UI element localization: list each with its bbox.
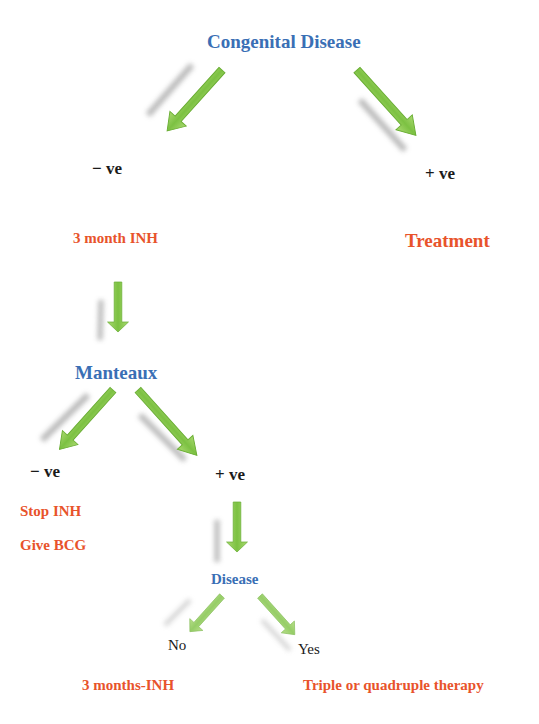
arrow-disease-to-yes <box>253 590 301 640</box>
test-positive-label: + ve <box>215 465 245 485</box>
test-negative-label: − ve <box>30 462 60 482</box>
root-node: Congenital Disease <box>207 31 361 53</box>
disease-yes-label: Yes <box>298 641 320 658</box>
stop-inh-node: Stop INH <box>20 503 81 520</box>
arrow-positive-to-disease <box>227 502 248 552</box>
manteaux-node: Manteaux <box>75 362 157 384</box>
arrow-shadows <box>42 65 405 650</box>
arrow-inh-to-manteaux <box>108 282 129 332</box>
no-action-node: 3 months-INH <box>82 677 174 694</box>
root-negative-label: − ve <box>92 159 122 179</box>
root-positive-label: + ve <box>425 164 455 184</box>
pos-action-node: Treatment <box>405 230 490 252</box>
yes-action-node: Triple or quadruple therapy <box>303 677 484 694</box>
arrow-manteaux-to-positive <box>130 383 204 462</box>
disease-no-label: No <box>168 637 186 654</box>
disease-node: Disease <box>211 571 259 588</box>
arrow-disease-to-no <box>183 590 228 637</box>
neg-action-node: 3 month INH <box>73 230 158 247</box>
arrow-root-to-negative <box>159 63 230 139</box>
give-bcg-node: Give BCG <box>20 537 86 554</box>
